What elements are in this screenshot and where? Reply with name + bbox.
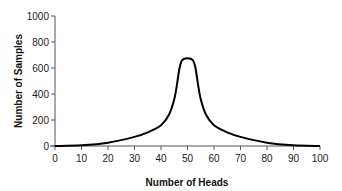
x-tick-label: 90: [288, 153, 300, 164]
x-tick-label: 30: [129, 153, 141, 164]
y-tick-label: 0: [43, 141, 49, 152]
y-axis-label: Number of Samples: [13, 34, 24, 128]
y-tick-label: 800: [32, 37, 49, 48]
x-tick-label: 80: [261, 153, 273, 164]
data-line: [55, 58, 320, 146]
y-tick-label: 200: [32, 115, 49, 126]
x-tick-label: 10: [76, 153, 88, 164]
x-tick-label: 60: [208, 153, 220, 164]
x-axis-label: Number of Heads: [146, 177, 229, 188]
x-tick-label: 70: [235, 153, 247, 164]
chart: 02004006008001000 0102030405060708090100…: [0, 0, 342, 191]
x-tick-label: 100: [312, 153, 329, 164]
x-tick-label: 0: [52, 153, 58, 164]
x-tick-label: 40: [155, 153, 167, 164]
y-tick-label: 1000: [27, 11, 50, 22]
y-tick-label: 600: [32, 63, 49, 74]
x-axis: 0102030405060708090100: [50, 146, 329, 164]
y-axis: 02004006008001000: [27, 11, 55, 152]
y-tick-label: 400: [32, 89, 49, 100]
x-tick-label: 20: [102, 153, 114, 164]
x-tick-label: 50: [182, 153, 194, 164]
